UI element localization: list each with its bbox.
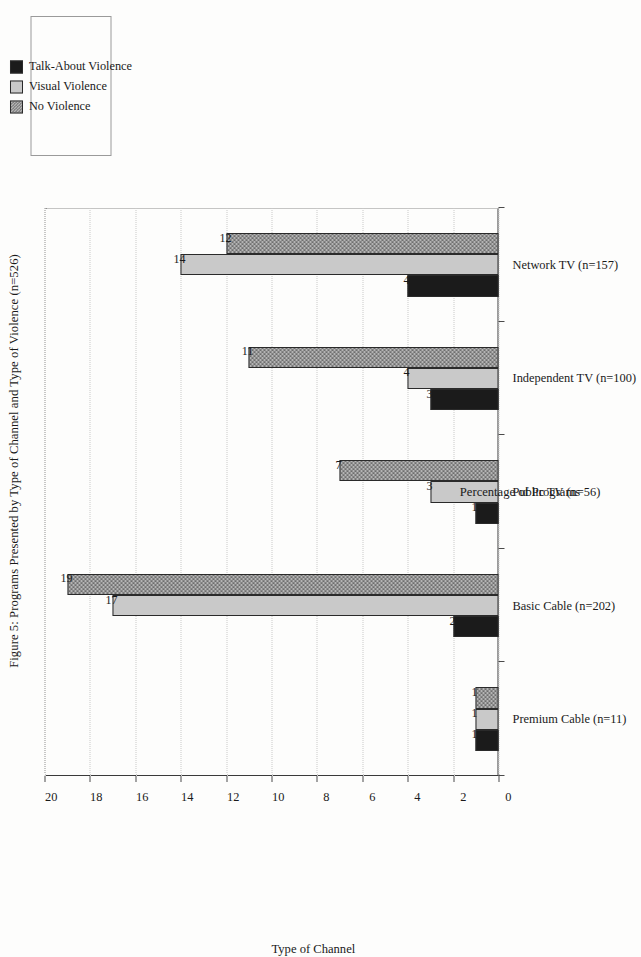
legend-label: Talk-About Violence bbox=[28, 60, 131, 75]
bar-value-label-wrap: 1 bbox=[450, 710, 476, 729]
value-tick-label: 0 bbox=[485, 791, 511, 803]
value-tick bbox=[362, 776, 363, 782]
category-tick bbox=[498, 548, 504, 549]
category-tick bbox=[498, 207, 504, 208]
legend-label: No Violence bbox=[28, 100, 90, 115]
value-tick bbox=[135, 776, 136, 782]
value-tick bbox=[316, 776, 317, 782]
bar-value-label: 4 bbox=[403, 274, 409, 286]
bar-value-label: 3 bbox=[426, 388, 432, 400]
legend-swatch-icon bbox=[9, 81, 22, 94]
figure-caption: Figure 5: Programs Presented by Type of … bbox=[6, 0, 21, 922]
value-tick bbox=[89, 776, 90, 782]
category-label: Premium Cable (n=11) bbox=[512, 712, 626, 727]
value-tick bbox=[271, 776, 272, 782]
bar-value-label: 1 bbox=[471, 707, 477, 719]
category-tick bbox=[498, 321, 504, 322]
bar-value-label: 12 bbox=[219, 232, 231, 244]
value-tick-label: 6 bbox=[349, 791, 375, 803]
bar-value-label-wrap: 12 bbox=[201, 234, 227, 253]
bar-value-label-wrap: 7 bbox=[314, 461, 340, 480]
bar: 7 bbox=[339, 460, 498, 481]
value-tick bbox=[226, 776, 227, 782]
value-tick bbox=[498, 776, 499, 782]
bar-value-label-wrap: 11 bbox=[223, 348, 249, 367]
value-tick-label: 12 bbox=[213, 791, 239, 803]
value-tick-label: 20 bbox=[31, 791, 57, 803]
bar: 4 bbox=[407, 275, 498, 296]
bar-value-label-wrap: 1 bbox=[450, 688, 476, 707]
bar: 17 bbox=[112, 595, 498, 616]
bar-value-label: 4 bbox=[403, 366, 409, 378]
bar: 2 bbox=[453, 616, 498, 637]
bar: 3 bbox=[430, 389, 498, 410]
bar-group: 21719 bbox=[44, 574, 498, 638]
bar-value-label: 7 bbox=[335, 459, 341, 471]
legend-rows: Talk-About ViolenceVisual ViolenceNo Vio… bbox=[9, 60, 131, 115]
bar-value-label: 2 bbox=[449, 615, 455, 627]
bar: 12 bbox=[226, 233, 498, 254]
bar-value-label-wrap: 4 bbox=[382, 276, 408, 295]
legend-swatch-icon bbox=[9, 61, 22, 74]
legend-item: Visual Violence bbox=[9, 80, 131, 95]
category-tick bbox=[498, 775, 504, 776]
bar-group: 3411 bbox=[44, 347, 498, 411]
value-tick-label: 8 bbox=[303, 791, 329, 803]
value-tick-label: 14 bbox=[167, 791, 193, 803]
bar: 11 bbox=[248, 347, 498, 368]
category-tick bbox=[498, 661, 504, 662]
legend-item: No Violence bbox=[9, 100, 131, 115]
value-tick-label: 4 bbox=[394, 791, 420, 803]
bar-value-label-wrap: 1 bbox=[450, 731, 476, 750]
value-tick bbox=[44, 776, 45, 782]
bar-value-label-wrap: 2 bbox=[428, 617, 454, 636]
bar-value-label: 1 bbox=[471, 686, 477, 698]
bar-value-label: 1 bbox=[471, 501, 477, 513]
value-tick bbox=[453, 776, 454, 782]
bar-value-label: 14 bbox=[173, 253, 185, 265]
bar-value-label-wrap: 19 bbox=[42, 575, 68, 594]
bar: 4 bbox=[407, 368, 498, 389]
bar-value-label: 1 bbox=[471, 728, 477, 740]
category-axis-title-wrap: Type of Channel bbox=[44, 862, 498, 882]
bar-value-label: 11 bbox=[242, 345, 254, 357]
bar: 1 bbox=[475, 709, 498, 730]
bar-value-label-wrap: 1 bbox=[450, 504, 476, 523]
value-tick bbox=[407, 776, 408, 782]
value-tick-label: 16 bbox=[122, 791, 148, 803]
value-tick-label: 2 bbox=[440, 791, 466, 803]
bar-value-label-wrap: 17 bbox=[87, 596, 113, 615]
bar: 1 bbox=[475, 503, 498, 524]
bar: 1 bbox=[475, 687, 498, 708]
bar-value-label-wrap: 14 bbox=[155, 255, 181, 274]
bar-value-label: 17 bbox=[105, 594, 117, 606]
value-axis-title: Percentage of Programs bbox=[236, 485, 641, 500]
category-axis-title: Type of Channel bbox=[271, 942, 355, 957]
value-tick-label: 10 bbox=[258, 791, 284, 803]
value-tick-label: 18 bbox=[76, 791, 102, 803]
category-label: Basic Cable (n=202) bbox=[512, 598, 615, 613]
bar-value-label-wrap: 4 bbox=[382, 369, 408, 388]
legend-swatch-icon bbox=[9, 101, 22, 114]
legend-item: Talk-About Violence bbox=[9, 60, 131, 75]
bar-group: 41412 bbox=[44, 233, 498, 297]
category-label: Network TV (n=157) bbox=[512, 257, 618, 272]
bar-group: 111 bbox=[44, 687, 498, 751]
value-tick bbox=[180, 776, 181, 782]
bar-value-label: 19 bbox=[60, 572, 72, 584]
bar-value-label-wrap: 3 bbox=[405, 390, 431, 409]
legend: Talk-About ViolenceVisual ViolenceNo Vio… bbox=[30, 16, 111, 156]
legend-label: Visual Violence bbox=[28, 80, 106, 95]
bar: 1 bbox=[475, 730, 498, 751]
bar: 14 bbox=[180, 254, 498, 275]
bar: 19 bbox=[67, 574, 498, 595]
category-tick bbox=[498, 434, 504, 435]
category-label: Independent TV (n=100) bbox=[512, 371, 636, 386]
